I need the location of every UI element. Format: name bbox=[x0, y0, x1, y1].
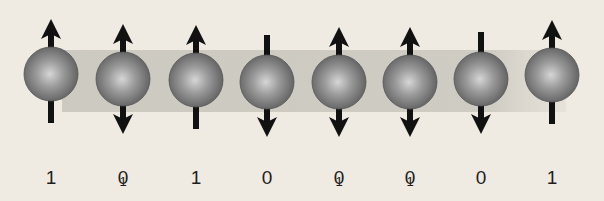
spin-tail-bottom bbox=[549, 100, 555, 124]
bit-label-3: 1 bbox=[181, 167, 211, 189]
qubit-sphere bbox=[24, 47, 78, 101]
spin-stem-up bbox=[120, 38, 126, 54]
spin-stem-up bbox=[407, 41, 413, 57]
bit-overlay-value: 1 bbox=[118, 171, 129, 193]
spin-stem-up bbox=[48, 33, 54, 49]
spin-tail-bottom bbox=[193, 105, 199, 129]
spin-stem-down bbox=[478, 104, 484, 120]
qubit-2 bbox=[96, 24, 150, 134]
bit-label-8: 1 bbox=[537, 167, 567, 189]
bit-label-5: 01 bbox=[324, 167, 354, 189]
bit-value: 0 bbox=[476, 167, 487, 188]
spin-tail-top bbox=[264, 35, 270, 57]
qubit-5 bbox=[312, 27, 366, 137]
spin-stem-up bbox=[336, 41, 342, 57]
bit-label-7: 0 bbox=[466, 167, 496, 189]
qubit-7 bbox=[454, 32, 508, 134]
qubit-sphere bbox=[383, 55, 437, 109]
qubit-3 bbox=[169, 25, 223, 129]
qubit-sphere bbox=[454, 52, 508, 106]
spin-qubit-diagram bbox=[0, 0, 604, 201]
spin-stem-up bbox=[193, 39, 199, 55]
bit-label-1: 1 bbox=[36, 167, 66, 189]
bit-label-2: 01 bbox=[108, 167, 138, 189]
spin-stem-down bbox=[407, 107, 413, 123]
spin-tail-top bbox=[478, 32, 484, 54]
bit-label-6: 01 bbox=[395, 167, 425, 189]
bit-label-4: 0 bbox=[252, 167, 282, 189]
qubit-sphere bbox=[525, 48, 579, 102]
qubit-sphere bbox=[96, 52, 150, 106]
bit-overlay-value: 1 bbox=[405, 171, 416, 193]
qubit-sphere bbox=[312, 55, 366, 109]
bit-value: 1 bbox=[46, 167, 57, 188]
spin-stem-down bbox=[336, 107, 342, 123]
bit-value: 0 bbox=[262, 167, 273, 188]
bit-value: 1 bbox=[191, 167, 202, 188]
qubit-sphere bbox=[240, 55, 294, 109]
spin-stem-up bbox=[549, 34, 555, 50]
qubit-sphere bbox=[169, 53, 223, 107]
spin-stem-down bbox=[264, 107, 270, 123]
spin-tail-bottom bbox=[48, 99, 54, 123]
bit-value: 1 bbox=[547, 167, 558, 188]
qubit-6 bbox=[383, 27, 437, 137]
spin-stem-down bbox=[120, 104, 126, 120]
bit-overlay-value: 1 bbox=[334, 171, 345, 193]
